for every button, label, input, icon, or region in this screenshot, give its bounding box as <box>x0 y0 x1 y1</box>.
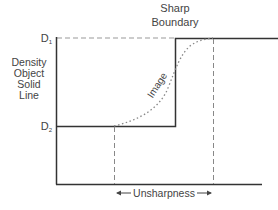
d2-subscript: 2 <box>49 127 53 133</box>
title-line-2: Boundary <box>151 16 199 28</box>
left-arrowhead-icon <box>116 191 121 196</box>
y-axis-label-line: Line <box>19 89 39 101</box>
d1-letter: D <box>41 32 49 44</box>
image-curve-label: Image <box>145 70 170 100</box>
title-line-1: Sharp <box>160 2 189 14</box>
right-arrowhead-icon <box>207 191 212 196</box>
d2-letter: D <box>41 120 49 132</box>
d2-label: D2 <box>41 120 53 133</box>
sharpness-diagram: Sharp Boundary D1 D2 Density Object Soli… <box>0 0 278 210</box>
d1-subscript: 1 <box>49 39 53 45</box>
d1-label: D1 <box>41 32 53 45</box>
object-solid-line <box>56 39 278 127</box>
unsharpness-label: Unsharpness <box>133 187 195 199</box>
